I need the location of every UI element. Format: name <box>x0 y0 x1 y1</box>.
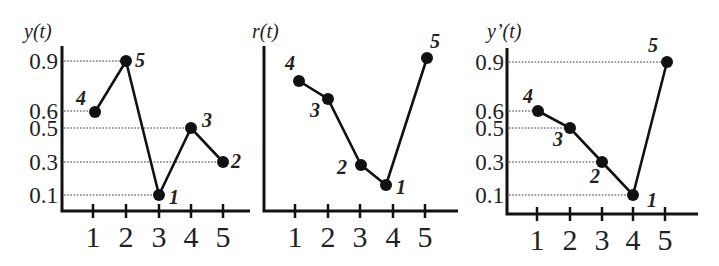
x-tick-label: 4 <box>184 220 199 253</box>
data-point <box>627 189 639 201</box>
x-tick-label: 3 <box>595 223 610 256</box>
y-tick-label: 0.9 <box>475 50 504 75</box>
data-point <box>380 179 392 191</box>
data-point <box>564 122 576 134</box>
panel-title: r(t) <box>252 20 279 43</box>
x-tick-label: 2 <box>119 220 134 253</box>
y-tick-label: 0.9 <box>29 49 58 74</box>
point-label: 3 <box>201 109 212 131</box>
point-label: 2 <box>230 150 241 172</box>
x-tick-label: 5 <box>658 223 673 256</box>
x-tick-label: 5 <box>216 220 231 253</box>
point-label: 1 <box>647 189 657 211</box>
panel-y-t: y(t) 0.9 0.6 0.5 0.3 0.1 1 2 3 4 5 4 <box>22 20 250 253</box>
x-tick-label: 1 <box>288 220 303 253</box>
x-tick-label: 4 <box>626 223 641 256</box>
data-point <box>217 156 229 168</box>
x-tick-label: 4 <box>386 220 401 253</box>
point-label: 1 <box>169 186 179 208</box>
x-tick-label: 2 <box>321 220 336 253</box>
x-tick-label: 3 <box>152 220 167 253</box>
data-point <box>153 189 165 201</box>
data-point <box>185 122 197 134</box>
panel-title: y(t) <box>22 20 52 43</box>
x-tick-label: 3 <box>353 220 368 253</box>
y-tick-label: 0.1 <box>29 183 58 208</box>
axes <box>507 48 698 214</box>
panel-r-t: r(t) 1 2 3 4 5 4 3 2 1 5 <box>252 20 458 253</box>
data-point <box>322 93 334 105</box>
panel-y-prime-t: y’(t) 0.9 0.6 0.5 0.3 0.1 1 2 3 4 5 4 3 … <box>475 20 698 256</box>
x-tick-label: 5 <box>418 220 433 253</box>
point-label: 3 <box>552 128 563 150</box>
y-tick-label: 0.3 <box>475 150 504 175</box>
x-tick-label: 1 <box>530 223 545 256</box>
y-tick-label: 0.5 <box>475 116 504 141</box>
x-tick-label: 2 <box>563 223 578 256</box>
data-point <box>421 52 433 64</box>
point-label: 5 <box>430 30 440 52</box>
data-point <box>532 105 544 117</box>
x-tick-label: 1 <box>86 220 101 253</box>
point-label: 3 <box>309 99 320 121</box>
chart-figure: y(t) 0.9 0.6 0.5 0.3 0.1 1 2 3 4 5 4 <box>0 0 719 266</box>
data-point <box>293 75 305 87</box>
data-point <box>355 159 367 171</box>
point-label: 5 <box>648 34 658 56</box>
point-label: 2 <box>336 156 347 178</box>
data-point <box>120 55 132 67</box>
y-tick-label: 0.5 <box>29 116 58 141</box>
data-point <box>89 106 101 118</box>
point-label: 4 <box>75 87 86 109</box>
point-label: 2 <box>589 165 600 187</box>
point-label: 1 <box>396 176 406 198</box>
y-tick-label: 0.1 <box>475 183 504 208</box>
panel-title: y’(t) <box>485 20 522 43</box>
point-label: 5 <box>135 49 145 71</box>
point-label: 4 <box>284 52 295 74</box>
data-point <box>661 56 673 68</box>
y-tick-label: 0.3 <box>29 150 58 175</box>
point-label: 4 <box>522 85 533 107</box>
